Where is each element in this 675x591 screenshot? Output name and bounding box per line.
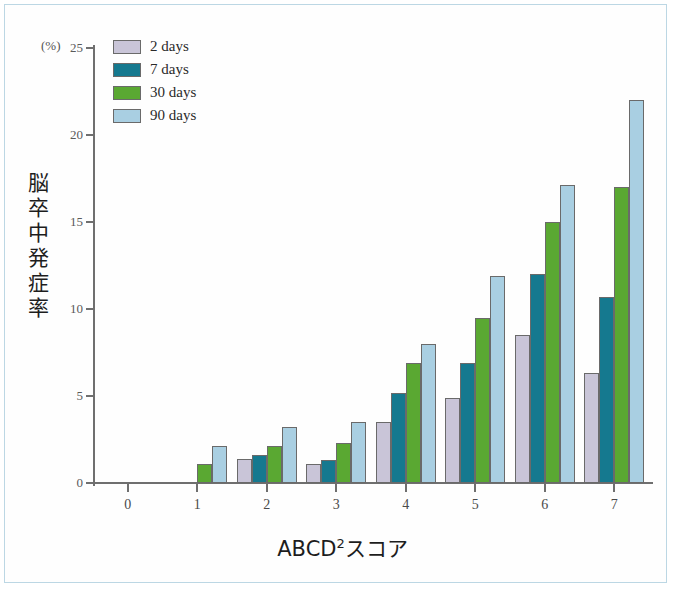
legend-swatch bbox=[113, 40, 141, 54]
y-axis-tick-label: 0 bbox=[51, 475, 83, 491]
x-axis-tick-label: 7 bbox=[594, 497, 634, 513]
x-axis-title-main: ABCD bbox=[277, 537, 336, 561]
x-axis-tick bbox=[405, 483, 407, 492]
legend: 2 days7 days30 days90 days bbox=[113, 35, 196, 127]
x-axis-tick bbox=[196, 483, 198, 492]
y-axis-tick-label: 20 bbox=[51, 127, 83, 143]
y-axis-title: 脳卒中発症率 bbox=[21, 171, 55, 321]
bar[interactable] bbox=[267, 446, 282, 483]
bar[interactable] bbox=[376, 422, 391, 483]
x-axis-tick bbox=[474, 483, 476, 492]
bar-group bbox=[584, 48, 644, 483]
x-axis-tick-label: 5 bbox=[455, 497, 495, 513]
legend-swatch bbox=[113, 86, 141, 100]
y-axis-tick-label: 15 bbox=[51, 214, 83, 230]
y-axis-tick-label: 5 bbox=[51, 388, 83, 404]
bar[interactable] bbox=[336, 443, 351, 483]
legend-label: 90 days bbox=[150, 107, 196, 124]
bar[interactable] bbox=[560, 185, 575, 483]
bar[interactable] bbox=[614, 187, 629, 483]
figure-frame: (%) 脳卒中発症率 0510152025 01234567 2 days7 d… bbox=[4, 4, 667, 583]
bar[interactable] bbox=[515, 335, 530, 483]
x-axis-tick-label: 4 bbox=[386, 497, 426, 513]
bar[interactable] bbox=[306, 464, 321, 483]
y-axis-title-char: 発 bbox=[21, 246, 55, 271]
bar[interactable] bbox=[421, 344, 436, 483]
bar[interactable] bbox=[490, 276, 505, 483]
bar[interactable] bbox=[584, 373, 599, 483]
y-axis-title-char: 症 bbox=[21, 271, 55, 296]
legend-item: 90 days bbox=[113, 104, 196, 127]
bar[interactable] bbox=[460, 363, 475, 483]
bar[interactable] bbox=[237, 459, 252, 483]
x-axis-title-superscript: 2 bbox=[336, 536, 344, 551]
x-axis-tick bbox=[335, 483, 337, 492]
bar-group bbox=[306, 48, 366, 483]
x-axis-tick bbox=[266, 483, 268, 492]
bar[interactable] bbox=[252, 455, 267, 483]
bar[interactable] bbox=[599, 297, 614, 483]
bar-group bbox=[515, 48, 575, 483]
legend-item: 30 days bbox=[113, 81, 196, 104]
x-axis-tick-label: 0 bbox=[108, 497, 148, 513]
bar[interactable] bbox=[545, 222, 560, 483]
x-axis-tick bbox=[127, 483, 129, 492]
x-axis-tick-label: 3 bbox=[316, 497, 356, 513]
bar-group bbox=[445, 48, 505, 483]
bar[interactable] bbox=[391, 393, 406, 483]
x-axis-title: ABCD2スコア bbox=[5, 532, 675, 562]
y-axis-tick-label: 10 bbox=[51, 301, 83, 317]
legend-swatch bbox=[113, 63, 141, 77]
legend-label: 7 days bbox=[150, 61, 189, 78]
legend-label: 2 days bbox=[150, 38, 189, 55]
x-axis-tick-label: 2 bbox=[247, 497, 287, 513]
bar-group bbox=[237, 48, 297, 483]
y-axis-title-char: 脳 bbox=[21, 171, 55, 196]
bar[interactable] bbox=[530, 274, 545, 483]
bar[interactable] bbox=[629, 100, 644, 483]
x-axis-title-tail: スコア bbox=[345, 537, 408, 561]
bar[interactable] bbox=[475, 318, 490, 483]
bar[interactable] bbox=[445, 398, 460, 483]
x-axis-tick-label: 6 bbox=[525, 497, 565, 513]
legend-item: 7 days bbox=[113, 58, 196, 81]
bar[interactable] bbox=[321, 460, 336, 483]
bar[interactable] bbox=[197, 464, 212, 483]
x-axis-tick bbox=[613, 483, 615, 492]
x-axis-tick-label: 1 bbox=[177, 497, 217, 513]
bar[interactable] bbox=[351, 422, 366, 483]
legend-swatch bbox=[113, 109, 141, 123]
y-axis-tick-label: 25 bbox=[51, 40, 83, 56]
bar-group bbox=[376, 48, 436, 483]
x-axis-tick bbox=[544, 483, 546, 492]
bar[interactable] bbox=[282, 427, 297, 483]
bar[interactable] bbox=[212, 446, 227, 483]
bar[interactable] bbox=[406, 363, 421, 483]
legend-item: 2 days bbox=[113, 35, 196, 58]
legend-label: 30 days bbox=[150, 84, 196, 101]
